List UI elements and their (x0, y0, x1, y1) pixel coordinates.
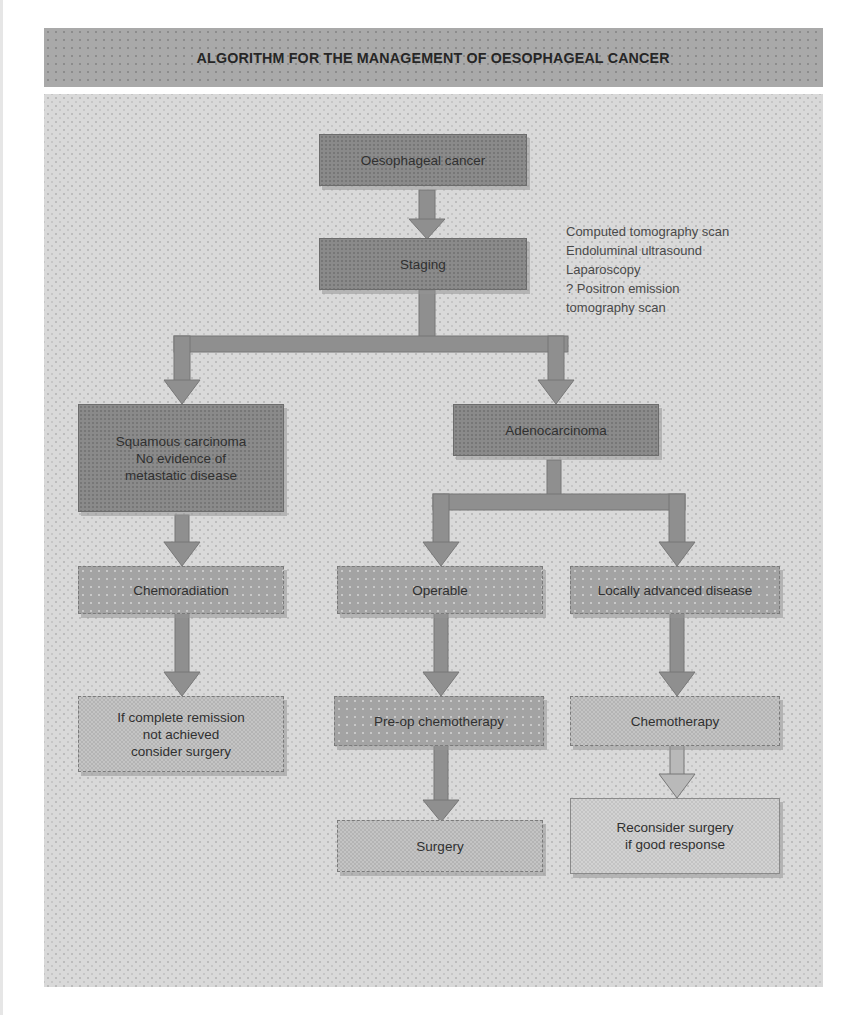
node-label-line: not achieved (143, 726, 220, 743)
node-label: Pre-op chemotherapy (374, 713, 504, 730)
node-label-line: if good response (625, 836, 725, 853)
node-remission-consider-surgery: If complete remission not achieved consi… (78, 696, 284, 772)
node-label: Oesophageal cancer (361, 152, 486, 169)
node-label: Surgery (416, 838, 463, 855)
staging-method-item: Computed tomography scan (566, 222, 729, 241)
node-adenocarcinoma: Adenocarcinoma (453, 404, 659, 456)
node-surgery: Surgery (337, 820, 543, 872)
node-label-line: metastatic disease (125, 467, 237, 484)
node-staging: Staging (319, 238, 527, 290)
node-label-line: Reconsider surgery (616, 819, 733, 836)
staging-method-item: tomography scan (566, 298, 729, 317)
node-label: Chemotherapy (631, 713, 720, 730)
diagram-title: ALGORITHM FOR THE MANAGEMENT OF OESOPHAG… (197, 49, 670, 67)
node-label-line: If complete remission (117, 709, 245, 726)
node-preop-chemotherapy: Pre-op chemotherapy (334, 696, 544, 746)
staging-method-item: ? Positron emission (566, 279, 729, 298)
node-label-line: consider surgery (131, 743, 231, 760)
node-label-line: No evidence of (136, 450, 226, 467)
node-operable: Operable (337, 566, 543, 614)
staging-methods-list: Computed tomography scan Endoluminal ult… (566, 222, 729, 317)
node-label: Adenocarcinoma (505, 422, 606, 439)
node-label-line: Squamous carcinoma (116, 433, 247, 450)
title-bar: ALGORITHM FOR THE MANAGEMENT OF OESOPHAG… (44, 28, 823, 87)
staging-method-item: Laparoscopy (566, 260, 729, 279)
node-chemoradiation: Chemoradiation (78, 566, 284, 614)
node-locally-advanced-disease: Locally advanced disease (570, 566, 780, 614)
node-reconsider-surgery: Reconsider surgery if good response (570, 798, 780, 874)
page-left-rule (0, 0, 3, 1015)
staging-method-item: Endoluminal ultrasound (566, 241, 729, 260)
node-label: Staging (400, 256, 446, 273)
node-oesophageal-cancer: Oesophageal cancer (319, 134, 527, 186)
node-chemotherapy: Chemotherapy (570, 696, 780, 746)
node-label: Locally advanced disease (598, 582, 753, 599)
node-squamous-carcinoma: Squamous carcinoma No evidence of metast… (78, 404, 284, 512)
node-label: Chemoradiation (133, 582, 228, 599)
node-label: Operable (412, 582, 468, 599)
